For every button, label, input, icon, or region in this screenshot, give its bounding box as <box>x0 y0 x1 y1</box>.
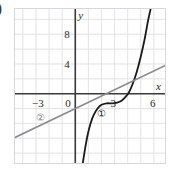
leading-paren-fragment: ) <box>0 1 2 16</box>
data-series <box>15 9 166 164</box>
xtick-label: 6 <box>150 98 156 109</box>
ytick-label: 8 <box>64 29 70 40</box>
curve-annotation-1: ① <box>97 109 106 119</box>
ytick-label: 4 <box>64 59 70 70</box>
figure-container: ) −336048xy①② <box>0 0 171 172</box>
curve-annotation-2: ② <box>36 113 45 123</box>
plot-area: −336048xy①② <box>14 8 166 164</box>
y-axis-label: y <box>78 10 83 21</box>
x-axis-label: x <box>156 81 161 92</box>
xtick-label: 3 <box>111 98 117 109</box>
xtick-label: −3 <box>32 98 44 109</box>
series-cubic-curve <box>82 9 150 164</box>
origin-label: 0 <box>65 98 71 109</box>
